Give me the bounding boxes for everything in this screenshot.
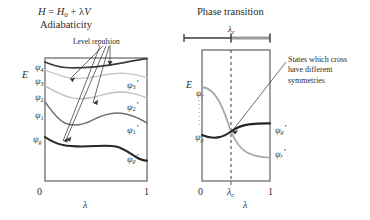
curve-psi4: [45, 59, 147, 68]
figure-root: H = H0 + λV Adiabaticity Level repulsion…: [0, 0, 370, 220]
left-plot-curves: [45, 59, 147, 161]
curve-psi3: [45, 70, 147, 79]
right-plot-frame: [202, 50, 270, 181]
curve-psi-r-to-r-prime: [202, 87, 270, 158]
curve-psi-g-to-g-prime: [202, 123, 270, 137]
arrow-line-3: [66, 46, 106, 140]
curve-psi1: [45, 102, 147, 125]
curve-psi-g: [45, 137, 147, 161]
top-range-bar: [184, 34, 270, 43]
arrow-line-2: [70, 46, 103, 79]
plot-vector-layer: [0, 0, 370, 220]
right-plot-curves: [202, 87, 270, 158]
arrow-line-1: [63, 46, 100, 141]
states-cross-leader-line: [233, 62, 286, 130]
